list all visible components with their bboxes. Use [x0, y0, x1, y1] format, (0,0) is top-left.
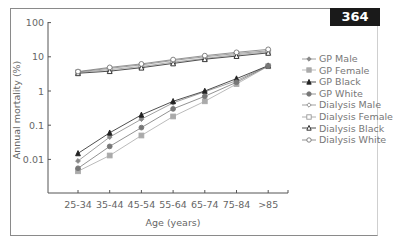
data-point — [107, 130, 112, 135]
data-point — [139, 62, 144, 67]
data-point — [107, 144, 112, 149]
x-tick-label: 75-84 — [223, 199, 251, 210]
data-point — [171, 57, 176, 62]
data-point — [202, 94, 207, 99]
x-tick-label: 55-64 — [159, 199, 187, 210]
x-tick-label: 35-44 — [96, 199, 124, 210]
data-point — [234, 80, 239, 85]
chart-legend: GP MaleGP FemaleGP BlackGP WhiteDialysis… — [302, 53, 393, 146]
data-point — [307, 57, 311, 61]
data-point — [171, 106, 176, 111]
circle-marker-icon — [302, 136, 316, 144]
data-point — [76, 69, 81, 74]
chart-series — [76, 47, 271, 174]
data-point — [139, 133, 144, 138]
data-point — [266, 64, 271, 69]
y-axis-title: Annual mortality (%) — [11, 61, 22, 160]
data-point — [171, 98, 176, 103]
data-point — [307, 79, 311, 84]
y-tick-label: 0.01 — [23, 154, 44, 165]
y-tick-label: 10 — [32, 51, 44, 62]
chart-axes: 1001010.10.0125-3435-4445-5455-6465-7475… — [23, 17, 288, 210]
series-gp-female — [76, 64, 271, 174]
y-tick-label: 1 — [38, 86, 44, 97]
legend-item: GP Black — [302, 76, 393, 88]
x-axis-title: Age (years) — [146, 217, 201, 228]
legend-item: Dialysis Male — [302, 99, 393, 111]
y-tick-label: 100 — [26, 17, 44, 28]
data-point — [202, 99, 207, 104]
data-point — [307, 68, 311, 72]
triangle-marker-icon — [302, 124, 316, 132]
legend-label: Dialysis Female — [319, 111, 393, 123]
legend-label: Dialysis Male — [319, 99, 381, 111]
square-marker-icon — [302, 66, 316, 74]
data-point — [202, 88, 207, 93]
legend-label: Dialysis White — [319, 134, 386, 146]
legend-item: Dialysis Black — [302, 123, 393, 135]
data-point — [234, 50, 239, 55]
data-point — [139, 125, 144, 130]
legend-item: GP Male — [302, 53, 393, 65]
series-gp-male — [76, 63, 271, 163]
data-point — [307, 91, 311, 95]
data-point — [107, 65, 112, 70]
data-point — [76, 166, 81, 171]
data-point — [171, 114, 176, 119]
square-marker-icon — [302, 113, 316, 121]
legend-label: GP Male — [319, 53, 358, 65]
x-tick-label: 25-34 — [64, 199, 92, 210]
legend-label: Dialysis Black — [319, 123, 384, 135]
diamond-marker-icon — [302, 101, 316, 109]
data-point — [307, 126, 311, 131]
data-point — [76, 151, 81, 156]
x-tick-label: >85 — [258, 199, 278, 210]
legend-item: GP White — [302, 88, 393, 100]
legend-item: GP Female — [302, 65, 393, 77]
legend-label: GP Female — [319, 65, 369, 77]
data-point — [307, 138, 311, 142]
data-point — [266, 47, 271, 52]
diamond-marker-icon — [302, 55, 316, 63]
data-point — [107, 153, 112, 158]
circle-marker-icon — [302, 90, 316, 98]
legend-item: Dialysis White — [302, 134, 393, 146]
data-point — [307, 115, 311, 119]
data-point — [307, 103, 311, 107]
x-tick-label: 45-54 — [128, 199, 156, 210]
legend-item: Dialysis Female — [302, 111, 393, 123]
legend-label: GP Black — [319, 76, 361, 88]
data-point — [139, 112, 144, 117]
x-tick-label: 65-74 — [191, 199, 219, 210]
y-tick-label: 0.1 — [29, 120, 44, 131]
data-point — [202, 53, 207, 58]
legend-label: GP White — [319, 88, 363, 100]
triangle-marker-icon — [302, 78, 316, 86]
